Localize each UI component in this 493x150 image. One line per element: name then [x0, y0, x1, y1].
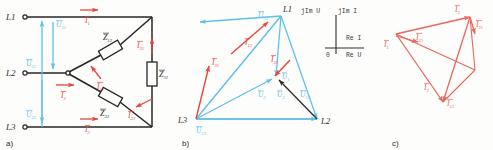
phasor-I3-c	[396, 17, 470, 34]
svg-text:U23: U23	[26, 110, 37, 120]
axis-label-im-voltage: jIm U	[301, 8, 320, 15]
label-U3-b: U3	[258, 91, 266, 100]
label-I12-c: I12	[446, 99, 455, 109]
label-voltage-U31: U31	[56, 20, 66, 30]
label-terminal-L1: L1	[5, 12, 16, 22]
label-current-I31: I31	[136, 41, 144, 51]
label-I1-c: I1	[383, 40, 389, 50]
phasor-U2-b	[279, 80, 317, 119]
impedance-box-Z12	[98, 40, 122, 60]
svg-text:U31: U31	[56, 20, 66, 30]
label-I3-c: I3	[454, 5, 461, 15]
label-voltage-U23: U23	[26, 110, 37, 120]
terminal-L3	[23, 125, 27, 129]
svg-text:I12: I12	[96, 82, 105, 92]
phasor-U12-b	[281, 16, 317, 119]
label-U31-b: U31	[258, 11, 268, 21]
branch-Z12-upper-seg	[120, 17, 152, 45]
complex-plane-inset: jIm U jIm I Re I Re U 0	[301, 8, 364, 59]
svg-text:I1: I1	[383, 40, 389, 50]
svg-text:U23: U23	[196, 126, 207, 136]
label-current-I2: I2	[60, 91, 67, 101]
svg-text:Z23: Z23	[100, 109, 110, 119]
label-voltage-U12: U12	[26, 59, 37, 69]
terminal-L1	[23, 15, 27, 19]
axis-label-re-current: Re I	[346, 35, 362, 42]
svg-text:I3: I3	[454, 5, 461, 15]
label-I2-c: I2	[423, 83, 430, 93]
svg-text:U2: U2	[277, 91, 285, 100]
svg-text:I2: I2	[60, 91, 67, 101]
svg-text:U1: U1	[282, 73, 290, 82]
branch-Z23-lower-seg	[120, 102, 152, 127]
svg-text:Z12: Z12	[103, 33, 113, 43]
label-vertex-L3-b: L3	[177, 115, 187, 125]
svg-text:U12: U12	[300, 90, 311, 100]
axis-label-origin: 0	[326, 52, 330, 59]
label-vertex-L2-b: L2	[320, 116, 331, 126]
branch-Z12-lower-seg	[69, 55, 101, 72]
svg-text:I31: I31	[475, 20, 483, 30]
svg-text:Z31: Z31	[159, 70, 168, 80]
svg-text:I31: I31	[211, 58, 219, 68]
label-terminal-L2: L2	[5, 68, 16, 78]
svg-text:U3: U3	[258, 91, 266, 100]
label-I23-c: I23	[415, 33, 424, 43]
phasor-U31-b	[200, 16, 281, 22]
label-U1-b: U1	[282, 73, 290, 82]
label-I31-b: I31	[211, 58, 219, 68]
panel-c: I3 I31 I1 I23 I2 I12 c)	[383, 5, 483, 148]
label-current-I12: I12	[96, 82, 105, 92]
current-arrow-I23	[136, 99, 152, 107]
label-impedance-Z23: Z23	[100, 109, 110, 119]
figure-root: L1 L2 L3 U31 U12 U23 I1 I2	[0, 0, 493, 150]
label-terminal-L3: L3	[5, 122, 16, 132]
label-U23-b: U23	[196, 126, 207, 136]
label-U12-b: U12	[300, 90, 311, 100]
phasor-U3-b	[196, 79, 272, 119]
panel-caption-c: c)	[392, 139, 399, 148]
terminal-L2	[23, 71, 27, 75]
svg-text:U12: U12	[26, 59, 37, 69]
phasor-U1-b	[276, 16, 281, 76]
current-arrow-I12	[91, 66, 101, 79]
label-impedance-Z31: Z31	[159, 70, 168, 80]
svg-text:I2: I2	[423, 83, 430, 93]
axis-label-re-voltage: Re U	[346, 52, 362, 59]
label-vertex-L1-b: L1	[282, 4, 292, 14]
impedance-box-Z31	[147, 62, 157, 86]
svg-text:I23: I23	[415, 33, 424, 43]
panel-caption-a: a)	[6, 139, 13, 148]
panel-b: L1 L2 L3 U31 U12 U23 U1 U3	[177, 4, 364, 148]
svg-text:U31: U31	[258, 11, 268, 21]
axis-label-im-current: jIm I	[338, 8, 357, 15]
label-impedance-Z12: Z12	[103, 33, 113, 43]
svg-text:I12: I12	[446, 99, 455, 109]
label-U2-b: U2	[277, 91, 285, 100]
svg-text:I31: I31	[136, 41, 144, 51]
label-I31-c: I31	[475, 20, 483, 30]
panel-caption-b: b)	[182, 139, 189, 148]
panel-a: L1 L2 L3 U31 U12 U23 I1 I2	[5, 10, 168, 148]
